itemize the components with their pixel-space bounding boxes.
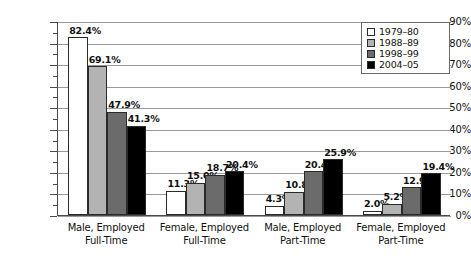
bar xyxy=(107,112,127,215)
legend-item: 1988–89 xyxy=(367,37,445,48)
y-tick-80 xyxy=(50,44,57,45)
y-tick-30 xyxy=(50,151,57,152)
legend-item: 1979–80 xyxy=(367,26,445,37)
y-tick-50 xyxy=(50,108,57,109)
category-label-line-0: Male, Employed xyxy=(57,222,155,235)
bar-group: 4.3%10.8%20.4%25.9% xyxy=(265,21,343,215)
bar xyxy=(68,37,88,215)
bar-value-label: 69.1% xyxy=(89,55,121,65)
bar xyxy=(284,192,304,215)
legend-label: 1979–80 xyxy=(379,27,419,37)
legend-label: 1998–99 xyxy=(379,49,419,59)
bar xyxy=(323,159,343,215)
category-label: Female, EmployedPart-Time xyxy=(352,222,450,247)
y-tick-60 xyxy=(50,87,57,88)
bar xyxy=(186,183,206,215)
bar xyxy=(88,66,108,215)
bar xyxy=(166,191,186,215)
bar-value-label: 47.9% xyxy=(108,100,140,110)
bar xyxy=(304,171,324,215)
bar-value-label: 82.4% xyxy=(69,26,101,36)
category-label-line-1: Full-Time xyxy=(155,235,253,248)
bar-value-label: 25.9% xyxy=(324,148,356,158)
bar xyxy=(127,126,147,215)
legend: 1979–801988–891998–992004–05 xyxy=(361,22,450,74)
legend-item: 1998–99 xyxy=(367,48,445,59)
legend-swatch-icon xyxy=(367,50,375,58)
bar xyxy=(402,187,422,215)
category-label-line-0: Female, Employed xyxy=(155,222,253,235)
bar xyxy=(265,206,285,215)
bar-value-label: 19.4% xyxy=(422,162,454,172)
category-label: Male, EmployedPart-Time xyxy=(254,222,352,247)
legend-label: 2004–05 xyxy=(379,60,419,70)
category-label-line-1: Part-Time xyxy=(352,235,450,248)
legend-swatch-icon xyxy=(367,28,375,36)
category-label: Female, EmployedFull-Time xyxy=(155,222,253,247)
y-tick-90 xyxy=(50,22,57,23)
bar xyxy=(382,204,402,215)
bar-group: 11.3%15.0%18.7%20.4% xyxy=(166,21,244,215)
gridline-0 xyxy=(58,216,451,217)
category-label-line-0: Male, Employed xyxy=(254,222,352,235)
bar-group: 82.4%69.1%47.9%41.3% xyxy=(68,21,146,215)
legend-item: 2004–05 xyxy=(367,59,445,70)
y-tick-70 xyxy=(50,65,57,66)
bar xyxy=(225,171,245,215)
bar xyxy=(421,173,441,215)
y-tick-20 xyxy=(50,173,57,174)
bar xyxy=(363,211,383,215)
bar-value-label: 20.4% xyxy=(226,160,258,170)
legend-swatch-icon xyxy=(367,61,375,69)
bar-chart: 0%10%20%30%40%50%60%70%80%90% 82.4%69.1%… xyxy=(0,0,471,259)
y-tick-10 xyxy=(50,194,57,195)
category-label-line-1: Full-Time xyxy=(57,235,155,248)
y-tick-0 xyxy=(50,216,57,217)
category-label: Male, EmployedFull-Time xyxy=(57,222,155,247)
legend-swatch-icon xyxy=(367,39,375,47)
category-label-line-0: Female, Employed xyxy=(352,222,450,235)
y-tick-40 xyxy=(50,130,57,131)
bar xyxy=(205,175,225,215)
legend-label: 1988–89 xyxy=(379,38,419,48)
category-label-line-1: Part-Time xyxy=(254,235,352,248)
bar-value-label: 41.3% xyxy=(128,114,160,124)
